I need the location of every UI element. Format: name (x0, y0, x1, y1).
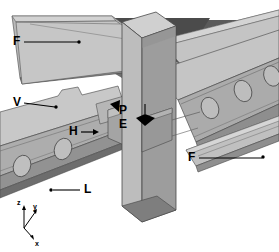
leader-dot-F-top-left (77, 40, 80, 43)
label-E-center: E (119, 118, 127, 130)
label-P-center: P (119, 104, 127, 116)
label-L-bottom-left: L (84, 183, 91, 195)
leader-dot-L (49, 188, 52, 191)
label-V-left: V (13, 96, 21, 108)
leader-dot-V-left (54, 105, 57, 108)
axis-label-y: y (33, 203, 37, 210)
axis-label-z: z (17, 199, 21, 206)
connection-3d-render (0, 0, 279, 252)
technical-figure: F V H P E F L z y x (0, 0, 279, 252)
leader-dot-F-right (261, 155, 264, 158)
label-F-top-left: F (13, 35, 20, 47)
axis-label-x: x (35, 240, 39, 247)
label-H-center-left: H (69, 125, 78, 137)
label-F-right: F (188, 151, 195, 163)
